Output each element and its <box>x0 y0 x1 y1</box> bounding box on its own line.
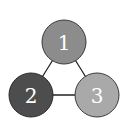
node-2-label: 2 <box>25 84 38 108</box>
node-3: 3 <box>75 73 119 117</box>
node-3-label: 3 <box>91 84 104 108</box>
node-1-label: 1 <box>58 31 71 55</box>
node-2: 2 <box>9 73 53 117</box>
node-1: 1 <box>42 20 86 64</box>
graph-diagram: 1 2 3 <box>0 0 128 131</box>
